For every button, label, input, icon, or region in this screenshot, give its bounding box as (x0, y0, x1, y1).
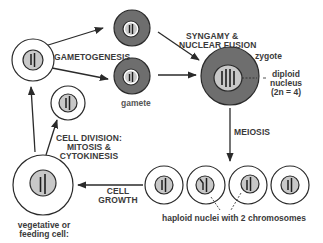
arrow-division-parent (31, 87, 35, 152)
diploid-line-3: (2n = 4) (268, 88, 304, 97)
zygote-label: zygote (255, 52, 282, 61)
nucleus (155, 176, 173, 194)
cell-division-line-3: CYTOKINESIS (52, 152, 126, 161)
vegetative-line-2: feeding cell: (14, 230, 74, 239)
gamete-top (114, 10, 150, 46)
diploid-nucleus (214, 65, 242, 91)
diploid-nucleus-label: diploid nucleus (2n = 4) (268, 70, 304, 97)
syngamy-line-2: NUCLEAR FUSION (179, 41, 256, 50)
haploid-nuclei-label: haploid nuclei with 2 chromosomes (162, 214, 306, 223)
nucleus (59, 94, 77, 112)
gamete-bottom (114, 58, 150, 94)
parent-cell (12, 39, 54, 81)
gametogenesis-label: GAMETOGENESIS (54, 53, 130, 62)
meiosis-label: MEIOSIS (234, 128, 270, 137)
syngamy-label: SYNGAMY & NUCLEAR FUSION (186, 32, 256, 50)
cell-growth-label: CELL GROWTH (94, 187, 142, 205)
haploid-cell-2 (187, 166, 225, 204)
daughter-cell (51, 86, 85, 120)
arrow-gametogenesis-top (45, 28, 103, 46)
haploid-cell-3 (229, 166, 267, 204)
vegetative-cell (13, 155, 73, 215)
haploid-cell-1 (145, 166, 183, 204)
nucleus (196, 176, 214, 194)
life-cycle-diagram (0, 0, 323, 243)
nucleus (23, 50, 43, 70)
gamete-label: gamete (121, 99, 151, 108)
cell-division-label: CELL DIVISION: MITOSIS & CYTOKINESIS (52, 134, 126, 161)
cell-growth-line-2: GROWTH (94, 196, 142, 205)
nucleus (30, 170, 56, 196)
nucleus (281, 176, 299, 194)
vegetative-cell-label: vegetative or feeding cell: (14, 221, 74, 239)
haploid-cell-4 (271, 166, 309, 204)
arrow-gametogenesis-bottom (52, 68, 108, 79)
